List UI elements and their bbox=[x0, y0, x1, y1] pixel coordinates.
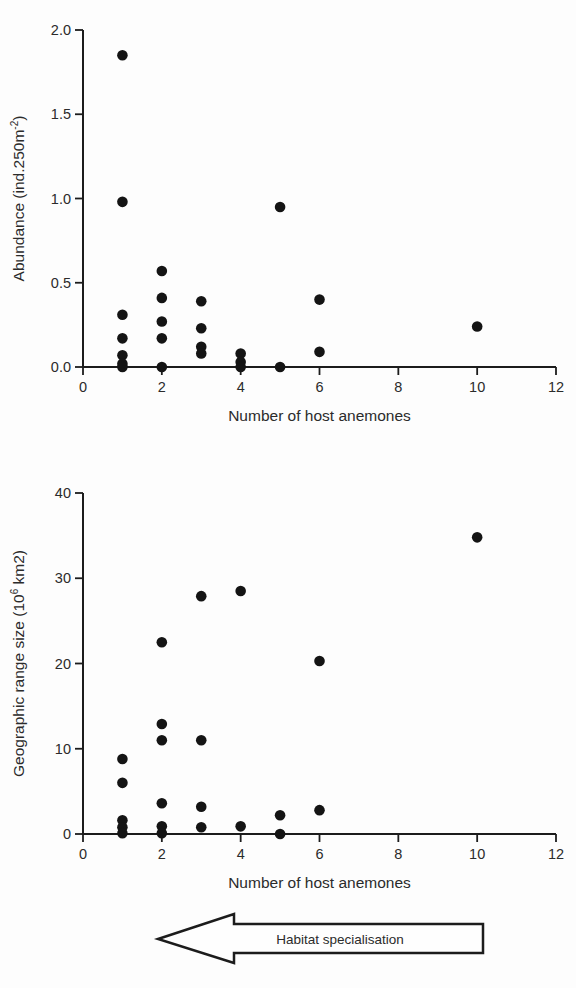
y-tick-label: 10 bbox=[55, 741, 71, 757]
y-tick-label: 1.5 bbox=[51, 106, 71, 122]
data-point bbox=[196, 348, 207, 359]
data-point bbox=[196, 323, 207, 334]
y-tick-label: 1.0 bbox=[51, 191, 71, 207]
data-point bbox=[314, 294, 325, 305]
data-point bbox=[117, 197, 128, 208]
y-tick-label: 2.0 bbox=[51, 22, 71, 38]
x-tick-label: 2 bbox=[158, 379, 166, 395]
data-point bbox=[157, 333, 168, 344]
data-point bbox=[157, 637, 168, 648]
x-tick-label: 10 bbox=[469, 846, 485, 862]
x-tick-label: 6 bbox=[315, 379, 323, 395]
data-point bbox=[275, 829, 286, 840]
data-point bbox=[157, 828, 168, 839]
data-point bbox=[117, 333, 128, 344]
data-point bbox=[117, 828, 128, 839]
figure: 0246810120.00.51.01.52.0Number of host a… bbox=[0, 0, 576, 988]
x-axis-title: Number of host anemones bbox=[228, 407, 411, 424]
data-point bbox=[157, 798, 168, 809]
x-tick-label: 6 bbox=[315, 846, 323, 862]
data-point bbox=[117, 50, 128, 61]
data-point bbox=[157, 293, 168, 304]
y-axis-title: Geographic range size (106 km2) bbox=[9, 550, 27, 777]
x-tick-label: 12 bbox=[548, 379, 564, 395]
data-point bbox=[196, 801, 207, 812]
habitat-specialisation-arrow: Habitat specialisation bbox=[158, 914, 483, 963]
x-tick-label: 8 bbox=[394, 379, 402, 395]
data-point bbox=[196, 735, 207, 746]
data-point bbox=[117, 309, 128, 320]
data-point bbox=[196, 296, 207, 307]
data-point bbox=[472, 321, 483, 332]
y-tick-label: 0 bbox=[63, 826, 71, 842]
x-tick-label: 0 bbox=[79, 846, 87, 862]
data-point bbox=[157, 266, 168, 277]
data-point bbox=[314, 656, 325, 667]
data-point bbox=[157, 735, 168, 746]
x-tick-label: 12 bbox=[548, 846, 564, 862]
y-tick-label: 0.5 bbox=[51, 275, 71, 291]
data-point bbox=[235, 821, 246, 832]
x-axis-title: Number of host anemones bbox=[228, 874, 411, 891]
x-tick-label: 4 bbox=[237, 846, 245, 862]
arrow-label: Habitat specialisation bbox=[276, 932, 404, 947]
data-point bbox=[157, 719, 168, 730]
x-tick-label: 10 bbox=[469, 379, 485, 395]
x-tick-label: 4 bbox=[237, 379, 245, 395]
x-tick-label: 8 bbox=[394, 846, 402, 862]
y-tick-label: 20 bbox=[55, 656, 71, 672]
data-point bbox=[235, 586, 246, 597]
scatter-figure-svg: 0246810120.00.51.01.52.0Number of host a… bbox=[0, 0, 576, 988]
data-point bbox=[196, 591, 207, 602]
data-point bbox=[157, 362, 168, 373]
scatter-plot-abundance-vs-hosts: 0246810120.00.51.01.52.0Number of host a… bbox=[9, 22, 564, 424]
data-point bbox=[157, 316, 168, 327]
data-point bbox=[314, 347, 325, 358]
y-axis-title: Abundance (ind.250m-2) bbox=[9, 116, 27, 282]
data-point bbox=[235, 362, 246, 373]
x-tick-label: 2 bbox=[158, 846, 166, 862]
x-tick-label: 0 bbox=[79, 379, 87, 395]
data-point bbox=[275, 810, 286, 821]
y-tick-label: 30 bbox=[55, 570, 71, 586]
data-point bbox=[275, 202, 286, 213]
data-point bbox=[275, 362, 286, 373]
y-tick-label: 40 bbox=[55, 485, 71, 501]
data-point bbox=[314, 805, 325, 816]
y-tick-label: 0.0 bbox=[51, 359, 71, 375]
data-point bbox=[472, 532, 483, 543]
scatter-plot-range-size-vs-hosts: 024681012010203040Number of host anemone… bbox=[9, 485, 564, 891]
data-point bbox=[117, 778, 128, 789]
data-point bbox=[196, 822, 207, 833]
data-point bbox=[117, 754, 128, 765]
data-point bbox=[117, 362, 128, 373]
